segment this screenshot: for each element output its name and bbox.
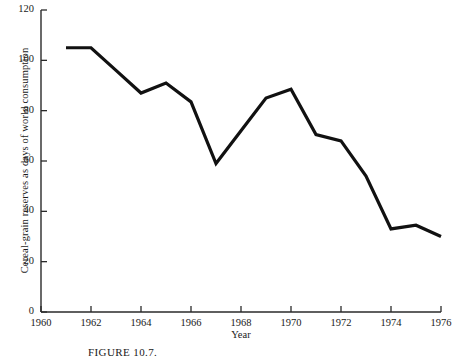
y-tick-label: 100 xyxy=(4,53,34,64)
line-chart-plot xyxy=(0,0,459,330)
x-tick-label: 1972 xyxy=(321,317,361,328)
x-axis-title: Year xyxy=(0,329,459,340)
x-tick-label: 1968 xyxy=(221,317,261,328)
figure-container: Cereal-grain reserves as days of world c… xyxy=(0,0,459,364)
figure-caption: FIGURE 10.7. xyxy=(88,346,157,358)
x-tick-label: 1962 xyxy=(71,317,111,328)
y-tick-label: 20 xyxy=(4,255,34,266)
x-tick-label: 1976 xyxy=(421,317,459,328)
y-tick-label: 60 xyxy=(4,154,34,165)
data-series-line xyxy=(66,48,441,237)
x-tick-label: 1964 xyxy=(121,317,161,328)
x-tick-label: 1974 xyxy=(371,317,411,328)
y-tick-label: 120 xyxy=(4,3,34,14)
y-tick-label: 40 xyxy=(4,204,34,215)
y-axis-ticks xyxy=(41,10,47,312)
x-axis-ticks xyxy=(41,306,441,312)
x-tick-label: 1970 xyxy=(271,317,311,328)
y-tick-label: 0 xyxy=(4,305,34,316)
x-tick-label: 1966 xyxy=(171,317,211,328)
y-tick-label: 80 xyxy=(4,104,34,115)
x-tick-label: 1960 xyxy=(21,317,61,328)
